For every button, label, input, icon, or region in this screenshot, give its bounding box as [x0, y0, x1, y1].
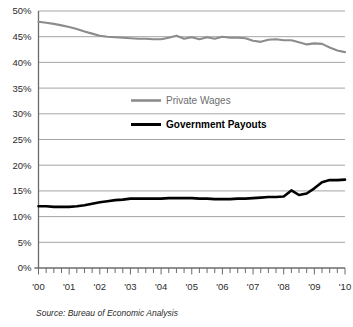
legend-label-private-wages: Private Wages [166, 95, 231, 106]
y-axis-tick-label: 30% [12, 108, 32, 119]
line-chart: 0%5%10%15%20%25%30%35%40%45%50% '00'01'0… [0, 0, 353, 327]
y-axis-tick-label: 15% [12, 185, 32, 196]
x-axis-tick-label: '09 [308, 281, 320, 292]
y-axis-tick-label: 45% [12, 31, 32, 42]
x-axis-tick-label: '04 [155, 281, 167, 292]
series-line-government-payouts [39, 180, 346, 207]
y-axis-tick-label: 20% [12, 160, 32, 171]
x-axis-tick-label: '05 [186, 281, 198, 292]
y-axis-tick-label: 5% [18, 237, 32, 248]
x-axis-minor-ticks [39, 268, 346, 275]
x-axis-tick-label: '02 [94, 281, 106, 292]
chart-container: 0%5%10%15%20%25%30%35%40%45%50% '00'01'0… [0, 0, 353, 327]
x-axis-tick-label: '08 [278, 281, 290, 292]
y-axis-tick-label: 25% [12, 134, 32, 145]
x-axis-tick-labels: '00'01'02'03'04'05'06'07'08'09'10 [32, 281, 351, 292]
source-note: Source: Bureau of Economic Analysis [36, 308, 179, 318]
y-axis-tick-label: 35% [12, 83, 32, 94]
x-axis-tick-label: '01 [63, 281, 75, 292]
chart-legend: Private Wages Government Payouts [131, 95, 267, 130]
x-axis-tick-label: '06 [216, 281, 228, 292]
x-axis-tick-label: '07 [247, 281, 259, 292]
x-axis-tick-label: '03 [124, 281, 136, 292]
legend-label-government-payouts: Government Payouts [166, 119, 267, 130]
y-axis-tick-label: 50% [12, 5, 32, 16]
x-axis-tick-label: '10 [339, 281, 351, 292]
x-axis-tick-label: '00 [32, 281, 44, 292]
y-axis-tick-labels: 0%5%10%15%20%25%30%35%40%45%50% [12, 5, 32, 273]
y-axis-tick-label: 10% [12, 211, 32, 222]
y-axis-tick-label: 0% [18, 262, 32, 273]
gridlines-group [35, 11, 346, 268]
y-axis-tick-label: 40% [12, 57, 32, 68]
